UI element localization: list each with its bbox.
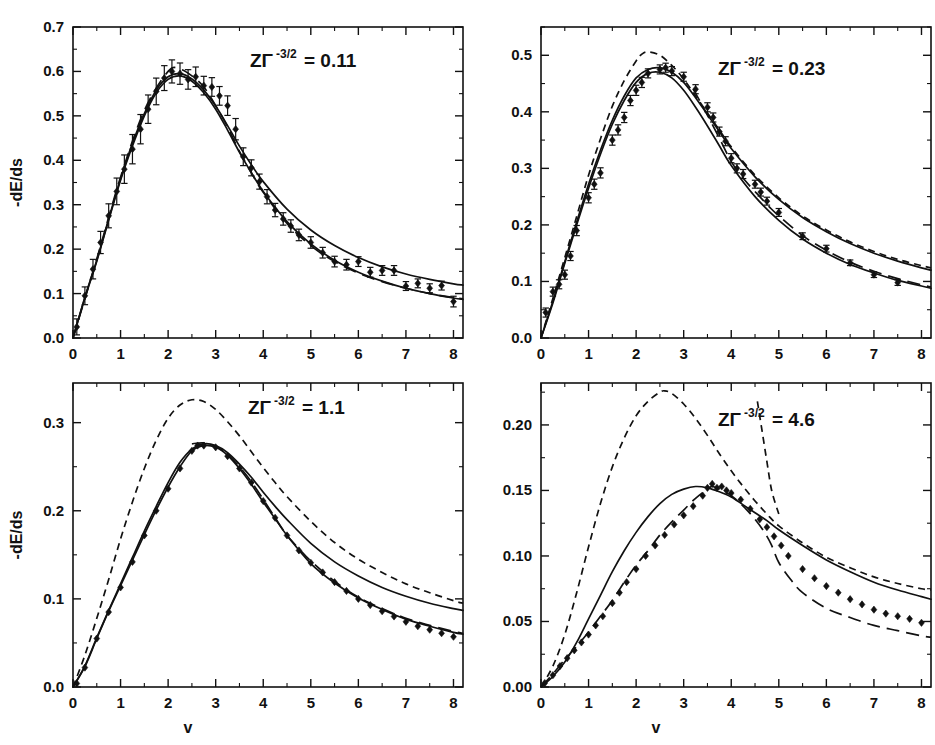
ytick-label: 0.20 <box>503 416 532 433</box>
annotation-value: = 4.6 <box>772 409 815 430</box>
data-point-marker <box>847 596 853 603</box>
data-point-marker <box>662 531 668 538</box>
xtick-label: 3 <box>212 345 220 362</box>
xtick-label: 2 <box>632 694 640 711</box>
xtick-label: 0 <box>69 345 77 362</box>
data-point-marker <box>367 269 373 276</box>
curve <box>541 487 931 687</box>
xtick-label: 8 <box>449 694 457 711</box>
data-point-marker <box>693 86 699 93</box>
axis-tick-labels: 0123456780.00.10.20.30.40.5 <box>511 46 926 362</box>
data-point-marker <box>705 484 711 491</box>
annotation-exponent: -3/2 <box>276 47 297 61</box>
xtick-label: 7 <box>870 694 878 711</box>
axis-ticks <box>73 383 463 687</box>
xtick-label: 5 <box>775 694 783 711</box>
xtick-label: 8 <box>917 694 925 711</box>
xtick-label: 1 <box>584 694 592 711</box>
curve <box>73 74 463 338</box>
stopping-power-figure: 0123456780.00.10.20.30.40.50.60.7-dE/dsZ… <box>0 0 935 745</box>
axis-ticks <box>73 27 463 338</box>
annotation-base: ZΓ <box>250 50 274 71</box>
panel-top-left: 0123456780.00.10.20.30.40.50.60.7-dE/dsZ… <box>0 0 467 372</box>
xtick-label: 0 <box>69 694 77 711</box>
data-point-marker <box>785 552 791 559</box>
xtick-label: 6 <box>822 345 830 362</box>
data-point-marker <box>593 622 599 629</box>
data-point-marker <box>823 583 829 590</box>
xtick-label: 0 <box>537 694 545 711</box>
data-point-marker <box>439 282 445 289</box>
ytick-label: 0.10 <box>503 547 532 564</box>
annotation-base: ZΓ <box>248 397 272 418</box>
panel-annotation: ZΓ-3/2= 1.1 <box>248 394 345 418</box>
axis-tick-labels: 0123456780.000.050.100.150.20 <box>503 416 926 711</box>
xtick-label: 2 <box>164 345 172 362</box>
data-point-marker <box>859 601 865 608</box>
data-point-marker <box>740 170 746 177</box>
annotation-base: ZΓ <box>718 409 742 430</box>
data-point-marker <box>600 613 606 620</box>
data-point-marker <box>598 169 604 176</box>
ytick-label: 0.15 <box>503 481 532 498</box>
data-point-marker <box>621 114 627 121</box>
data-series-points <box>543 63 901 317</box>
data-point-marker <box>752 181 758 188</box>
ytick-label: 0.0 <box>43 678 64 695</box>
ytick-label: 0.4 <box>43 151 65 168</box>
curve <box>541 52 931 338</box>
annotation-base: ZΓ <box>718 58 742 79</box>
data-point-marker <box>690 503 696 510</box>
ytick-label: 0.3 <box>43 196 64 213</box>
annotation-exponent: -3/2 <box>744 55 765 69</box>
data-point-marker <box>919 619 925 626</box>
xtick-label: 6 <box>822 694 830 711</box>
ytick-label: 0.0 <box>43 329 64 346</box>
annotation-value: = 0.23 <box>772 58 825 79</box>
data-point-marker <box>835 589 841 596</box>
xtick-label: 0 <box>537 345 545 362</box>
data-series-points <box>542 480 924 686</box>
ytick-label: 0.1 <box>511 272 532 289</box>
data-point-marker <box>812 575 818 582</box>
data-point-marker <box>883 610 889 617</box>
curve <box>541 486 931 687</box>
data-point-marker <box>391 267 397 274</box>
ytick-label: 0.2 <box>43 240 64 257</box>
xtick-label: 8 <box>449 345 457 362</box>
xtick-label: 5 <box>307 694 315 711</box>
data-point-marker <box>586 631 592 638</box>
x-axis-title: v <box>652 719 661 736</box>
ytick-label: 0.3 <box>43 414 64 431</box>
panel-annotation: ZΓ-3/2= 0.23 <box>718 55 825 79</box>
curve <box>73 400 463 687</box>
xtick-label: 1 <box>116 345 124 362</box>
y-axis-title: -dE/ds <box>8 510 25 559</box>
annotation-value: = 1.1 <box>302 397 345 418</box>
ytick-label: 0.7 <box>43 18 64 35</box>
ytick-label: 0.0 <box>511 329 532 346</box>
xtick-label: 4 <box>727 345 736 362</box>
data-point-marker <box>771 533 777 540</box>
ytick-label: 0.3 <box>511 159 532 176</box>
data-point-marker <box>907 615 913 622</box>
curve <box>73 67 463 338</box>
panel-tr-svg: 0123456780.00.10.20.30.40.5ZΓ-3/2= 0.23 <box>468 0 935 372</box>
xtick-label: 7 <box>402 694 410 711</box>
xtick-label: 5 <box>307 345 315 362</box>
data-point-marker <box>451 633 457 640</box>
data-point-marker <box>609 600 615 607</box>
curve <box>73 76 463 338</box>
data-point-marker <box>633 87 639 94</box>
data-point-marker <box>320 249 326 256</box>
data-point-marker <box>579 639 585 646</box>
xtick-label: 2 <box>164 694 172 711</box>
data-point-marker <box>778 542 784 549</box>
data-point-marker <box>615 126 621 133</box>
curve <box>541 72 931 338</box>
data-point-marker <box>272 206 278 213</box>
data-point-marker <box>617 589 623 596</box>
data-point-marker <box>427 285 433 292</box>
panel-annotation: ZΓ-3/2= 4.6 <box>718 406 815 430</box>
ytick-label: 0.5 <box>511 46 532 63</box>
